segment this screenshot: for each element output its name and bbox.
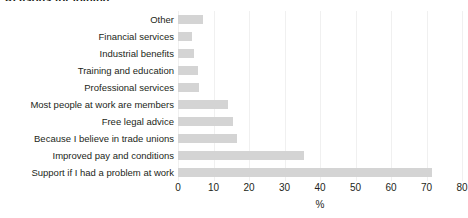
category-label: Improved pay and conditions — [0, 147, 174, 164]
x-tick-label: 50 — [350, 181, 361, 195]
chart-title-fragment: Reasons for joining — [5, 0, 110, 1]
bar-row — [178, 11, 462, 28]
bar-chart: Reasons for joining OtherFinancial servi… — [0, 0, 468, 218]
category-label: Other — [0, 11, 174, 28]
bar-row — [178, 45, 462, 62]
x-axis-title: % — [316, 198, 325, 212]
category-label: Financial services — [0, 28, 174, 45]
bar-row — [178, 147, 462, 164]
bar — [178, 49, 194, 58]
bar-row — [178, 164, 462, 181]
x-tick-label: 70 — [421, 181, 432, 195]
category-label: Most people at work are members — [0, 96, 174, 113]
bar-row — [178, 96, 462, 113]
bar — [178, 83, 199, 92]
plot-area — [178, 11, 462, 181]
bar-row — [178, 62, 462, 79]
x-tick-label: 40 — [314, 181, 325, 195]
bar-row — [178, 28, 462, 45]
x-tick-label: 10 — [208, 181, 219, 195]
x-tick-label: 60 — [385, 181, 396, 195]
bar — [178, 66, 198, 75]
bar — [178, 117, 233, 126]
bar — [178, 100, 228, 109]
category-label: Professional services — [0, 79, 174, 96]
category-label: Training and education — [0, 62, 174, 79]
x-tick-label: 80 — [456, 181, 467, 195]
gridline-80 — [462, 11, 463, 181]
bar-row — [178, 79, 462, 96]
category-label: Because I believe in trade unions — [0, 130, 174, 147]
x-axis: 01020304050607080 — [0, 181, 468, 201]
x-tick-label: 0 — [175, 181, 181, 195]
bar-row — [178, 130, 462, 147]
category-label: Industrial benefits — [0, 45, 174, 62]
category-label: Free legal advice — [0, 113, 174, 130]
x-tick-label: 30 — [279, 181, 290, 195]
bar — [178, 134, 237, 143]
bar — [178, 32, 192, 41]
bar — [178, 151, 304, 160]
bar — [178, 15, 203, 24]
category-labels: OtherFinancial servicesIndustrial benefi… — [0, 11, 174, 181]
bar-row — [178, 113, 462, 130]
bar — [178, 168, 432, 177]
category-label: Support if I had a problem at work — [0, 164, 174, 181]
x-tick-label: 20 — [243, 181, 254, 195]
